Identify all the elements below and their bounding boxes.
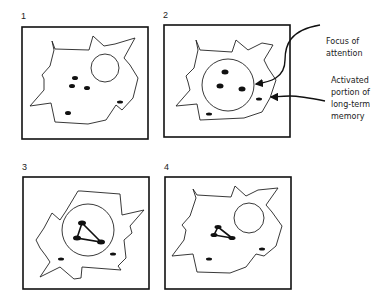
memory-item	[206, 113, 212, 116]
memory-item	[256, 98, 262, 101]
working-memory-diagram: 1 2 Focus of attention Activated portion…	[0, 0, 389, 302]
panel-4-number: 4	[164, 162, 169, 172]
panel-1: 1	[21, 11, 148, 139]
panel-1-number: 1	[21, 11, 26, 21]
memory-item	[117, 101, 123, 104]
panel-3: 3	[22, 162, 149, 289]
svg-text:Focus of: Focus of	[326, 37, 359, 46]
memory-item	[239, 87, 246, 92]
panel-2: 2 Focus of attention Activated portion o…	[163, 10, 370, 137]
svg-text:long-term: long-term	[331, 100, 370, 109]
ltm-region	[176, 40, 276, 120]
linked-chunk	[211, 225, 236, 240]
memory-item	[259, 248, 265, 251]
focus-of-attention-circle	[234, 203, 264, 233]
memory-item	[84, 86, 90, 90]
activated-arrow	[271, 96, 325, 101]
memory-item	[65, 111, 71, 115]
ltm-region	[30, 36, 138, 124]
memory-item	[72, 76, 78, 80]
activated-label: Activated portion of long-term memory	[331, 76, 370, 121]
focus-of-attention-circle	[91, 54, 119, 82]
panel-4: 4	[164, 162, 291, 289]
memory-item	[58, 258, 64, 261]
memory-item	[206, 258, 212, 261]
memory-item	[217, 84, 224, 89]
focus-arrow	[256, 25, 320, 84]
focus-label: Focus of attention	[326, 37, 363, 58]
svg-text:attention: attention	[326, 49, 363, 58]
svg-text:memory: memory	[331, 112, 365, 121]
ltm-region	[172, 186, 282, 273]
linked-chunk	[73, 221, 105, 245]
svg-text:Activated: Activated	[331, 76, 369, 85]
svg-text:portion of: portion of	[331, 88, 370, 97]
memory-item	[110, 253, 116, 256]
focus-of-attention-circle	[202, 59, 254, 111]
panel-3-number: 3	[22, 162, 27, 172]
panel-3-frame	[23, 177, 149, 289]
panel-1-frame	[22, 27, 148, 139]
memory-item	[69, 84, 75, 88]
panel-4-frame	[165, 177, 291, 289]
memory-item	[222, 70, 229, 75]
panel-2-number: 2	[163, 10, 168, 20]
